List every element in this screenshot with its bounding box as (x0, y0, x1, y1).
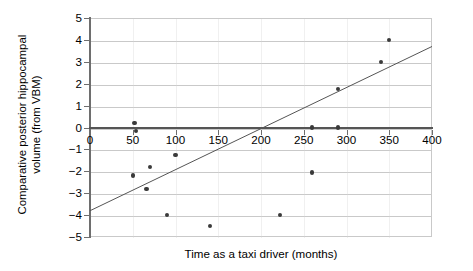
y-axis-tick (84, 40, 89, 41)
data-point (208, 224, 212, 228)
x-axis-tick-label: 250 (284, 133, 324, 146)
y-axis-tick (84, 18, 89, 19)
y-axis-tick-label: 1 (56, 99, 82, 112)
y-axis-tick-label: −5 (56, 230, 82, 243)
y-axis-title-line-2: volume (from VBM) (30, 35, 44, 215)
x-axis-tick-label: 100 (156, 133, 196, 146)
data-point (173, 153, 177, 157)
x-axis-title: Time as a taxi driver (months) (90, 247, 432, 260)
y-axis-tick (84, 215, 89, 216)
y-axis-tick-label: −2 (56, 164, 82, 177)
y-axis-tick (84, 193, 89, 194)
y-axis-tick (84, 84, 89, 85)
y-axis-title: Comparative posterior hippocampal volume… (0, 0, 60, 250)
data-point (336, 125, 340, 129)
y-axis-tick-label: −3 (56, 186, 82, 199)
data-point (379, 60, 383, 64)
x-axis-tick-label: 0 (70, 133, 110, 146)
data-point (131, 173, 135, 177)
y-axis-title-line-1: Comparative posterior hippocampal (16, 35, 30, 215)
x-axis-tick-label: 150 (198, 133, 238, 146)
y-axis-tick-label: 5 (56, 11, 82, 24)
data-point (144, 187, 148, 191)
y-axis-tick (84, 106, 89, 107)
x-axis-tick-label: 400 (412, 133, 452, 146)
y-axis-tick-label: 3 (56, 55, 82, 68)
y-axis-tick (84, 149, 89, 150)
y-axis-tick (84, 171, 89, 172)
x-axis-tick-label: 300 (327, 133, 367, 146)
data-point (148, 165, 152, 169)
y-axis-tick-label: 2 (56, 77, 82, 90)
y-axis-tick-label: 4 (56, 33, 82, 46)
x-axis-tick-label: 350 (369, 133, 409, 146)
x-axis-tick-label: 200 (241, 133, 281, 146)
y-axis-tick (84, 237, 89, 238)
figure-scatter-plot: Comparative posterior hippocampal volume… (0, 0, 473, 271)
y-axis-tick (84, 128, 89, 129)
y-axis-tick (84, 62, 89, 63)
y-axis-tick-label: −4 (56, 208, 82, 221)
x-axis-tick-label: 50 (113, 133, 153, 146)
regression-trendline (89, 17, 433, 239)
data-point (132, 121, 136, 125)
